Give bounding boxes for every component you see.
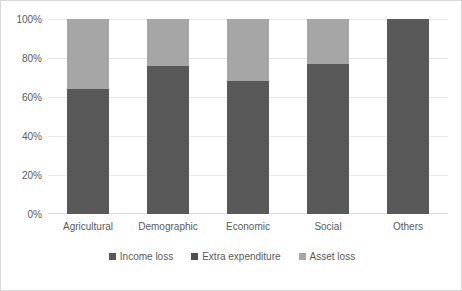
bar-stack xyxy=(387,19,429,214)
bar-segment-income-loss[interactable] xyxy=(227,81,269,214)
plot-area: 100% 80% 60% 40% 20% 0% xyxy=(48,19,448,214)
bar-segment-asset-loss[interactable] xyxy=(307,19,349,64)
y-tick-label-60: 60% xyxy=(22,92,42,103)
x-tick-label-demographic: Demographic xyxy=(128,221,208,232)
x-tick-label-others: Others xyxy=(368,221,448,232)
x-tick-label-social: Social xyxy=(288,221,368,232)
bar-segment-asset-loss[interactable] xyxy=(147,19,189,66)
legend-swatch-icon xyxy=(191,253,198,260)
bar-segment-income-loss[interactable] xyxy=(147,66,189,214)
bar-stack xyxy=(67,19,109,214)
y-tick-label-100: 100% xyxy=(16,14,42,25)
bar-group-social[interactable] xyxy=(288,19,368,214)
y-tick-label-0: 0% xyxy=(28,209,42,220)
legend-label: Extra expenditure xyxy=(202,251,280,262)
legend-swatch-icon xyxy=(109,253,116,260)
chart-legend: Income loss Extra expenditure Asset loss xyxy=(1,251,462,262)
bar-group-demographic[interactable] xyxy=(128,19,208,214)
y-tick-label-80: 80% xyxy=(22,53,42,64)
x-tick-label-economic: Economic xyxy=(208,221,288,232)
chart-container: 100% 80% 60% 40% 20% 0% xyxy=(0,0,462,291)
legend-item-extra-expenditure[interactable]: Extra expenditure xyxy=(191,251,280,262)
legend-swatch-icon xyxy=(299,253,306,260)
legend-label: Income loss xyxy=(120,251,173,262)
bar-stack xyxy=(227,19,269,214)
y-tick-label-20: 20% xyxy=(22,170,42,181)
bar-group-agricultural[interactable] xyxy=(48,19,128,214)
legend-label: Asset loss xyxy=(310,251,356,262)
y-tick-label-40: 40% xyxy=(22,131,42,142)
bar-segment-income-loss[interactable] xyxy=(387,19,429,214)
x-axis-labels: Agricultural Demographic Economic Social… xyxy=(48,221,448,232)
x-tick-label-agricultural: Agricultural xyxy=(48,221,128,232)
bar-group-others[interactable] xyxy=(368,19,448,214)
legend-item-income-loss[interactable]: Income loss xyxy=(109,251,173,262)
bar-segment-income-loss[interactable] xyxy=(67,89,109,214)
bar-segment-income-loss[interactable] xyxy=(307,64,349,214)
bar-segment-asset-loss[interactable] xyxy=(227,19,269,81)
legend-item-asset-loss[interactable]: Asset loss xyxy=(299,251,356,262)
bars-layer xyxy=(48,19,448,214)
bar-segment-asset-loss[interactable] xyxy=(67,19,109,89)
bar-stack xyxy=(307,19,349,214)
bar-stack xyxy=(147,19,189,214)
bar-group-economic[interactable] xyxy=(208,19,288,214)
